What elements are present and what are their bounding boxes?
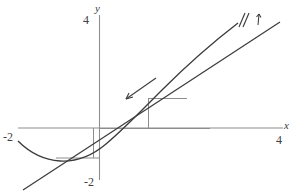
identity-line	[23, 22, 280, 190]
tick-label-y-bottom: -2	[84, 176, 94, 188]
tick-label-y-top: 4	[83, 14, 89, 26]
tangency-hatch-marks	[239, 13, 249, 27]
plot-canvas	[0, 0, 293, 194]
small-arrow-right-icon	[257, 14, 262, 25]
y-axis-label: y	[95, 3, 100, 14]
x-axis-label: x	[284, 120, 289, 131]
parabola-curve	[18, 23, 238, 161]
direction-arrow	[126, 78, 156, 99]
parabola-curve-group	[18, 23, 238, 161]
cobweb-diagram-figure: y x 4 -2 4 -2	[0, 0, 293, 194]
identity-line-group	[23, 22, 280, 190]
tick-label-x-left: -2	[3, 131, 13, 143]
direction-arrow-shaft	[126, 78, 156, 99]
tick-label-x-right: 4	[276, 134, 282, 146]
axes-group	[18, 15, 283, 180]
